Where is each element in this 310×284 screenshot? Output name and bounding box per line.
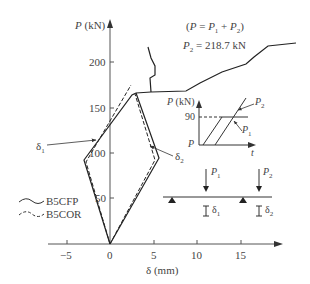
eq-p2: P	[230, 20, 237, 32]
beam-delta2-label: δ2	[265, 205, 273, 218]
equation-sum: (P = P1 + P2)	[186, 21, 244, 35]
xtick-neg5: −5	[60, 250, 72, 261]
y-axis-label: P (kN)	[75, 20, 105, 31]
eq-plus: +	[218, 20, 230, 32]
sub2: 2	[261, 102, 265, 110]
legend-b5cfp: B5CFP	[46, 196, 78, 207]
ytick-100: 100	[89, 148, 106, 159]
inset-load-history	[196, 98, 256, 148]
inset-origin-p: P	[188, 139, 194, 149]
xtick-10: 10	[191, 250, 202, 261]
delta1-pointer	[47, 140, 96, 145]
x-axis-label: δ (mm)	[146, 265, 178, 276]
eq-eq: =	[196, 20, 208, 32]
ytick-200: 200	[89, 57, 106, 68]
inset-y-label: P (kN)	[167, 97, 195, 107]
sub2: 2	[270, 210, 274, 218]
legend	[19, 199, 44, 217]
inset-p2-label: P2	[255, 97, 265, 110]
delta2-label: δ2	[175, 151, 184, 165]
sub1: 1	[217, 210, 221, 218]
sub1: 1	[217, 172, 221, 180]
delta1-label: δ1	[36, 141, 45, 155]
beam-delta1-label: δ1	[212, 205, 220, 218]
inset-tick-90: 90	[185, 112, 195, 122]
inset-t-label: t	[251, 148, 254, 158]
xtick-15: 15	[235, 250, 246, 261]
xtick-5: 5	[151, 250, 157, 261]
xtick-0: 0	[107, 250, 113, 261]
legend-b5cor: B5COR	[46, 209, 81, 220]
sub1: 1	[248, 130, 252, 138]
inset-unit: (kN)	[173, 96, 194, 107]
eq-close: )	[240, 20, 244, 32]
delta2-pointer	[150, 146, 173, 156]
x-axis	[48, 240, 283, 247]
y-unit: (kN)	[82, 19, 106, 31]
delta1-sub: 1	[41, 147, 45, 155]
equation-p2-value: P2 = 218.7 kN	[183, 40, 246, 54]
sub2: 2	[269, 172, 273, 180]
ytick-50: 50	[95, 193, 106, 204]
ytick-150: 150	[89, 103, 106, 114]
p2-symbol: P	[183, 39, 190, 51]
delta2-sub: 2	[180, 157, 184, 165]
load-deflection-chart	[0, 0, 310, 284]
beam-p1-label: P1	[211, 167, 221, 180]
p2-value: = 218.7 kN	[193, 39, 246, 51]
inset-p1-label: P1	[242, 125, 252, 138]
y-axis	[107, 19, 114, 244]
beam-p2-label: P2	[263, 167, 273, 180]
eq-p1: P	[208, 20, 215, 32]
p-symbol: P	[75, 19, 82, 31]
